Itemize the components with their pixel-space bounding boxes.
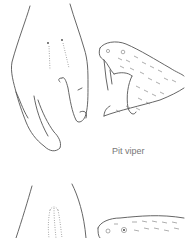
hand-illustration-bottom (16, 184, 86, 238)
snake-head-illustration-bottom (98, 216, 184, 238)
illustration-canvas-bottom (0, 0, 185, 238)
